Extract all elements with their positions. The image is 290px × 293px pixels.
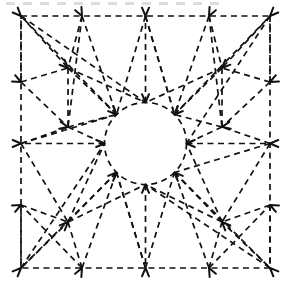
mesh-line bbox=[146, 68, 223, 103]
mesh-line bbox=[68, 144, 105, 223]
vertex-arrowhead bbox=[270, 268, 278, 276]
mesh-line bbox=[187, 144, 223, 223]
mesh-line bbox=[209, 16, 222, 127]
vertex-arrowhead bbox=[12, 205, 21, 212]
mesh-line bbox=[68, 185, 146, 223]
vertex-arrowhead bbox=[142, 268, 149, 276]
mesh-diagram-canvas bbox=[0, 0, 290, 293]
star-edge bbox=[117, 173, 146, 269]
mesh-line bbox=[175, 68, 223, 115]
vertex-arrowhead bbox=[13, 140, 21, 147]
mesh-line bbox=[117, 16, 146, 115]
vertex-arrowhead bbox=[13, 8, 21, 16]
mesh-line bbox=[68, 68, 117, 115]
mesh-line bbox=[82, 16, 117, 115]
mesh-line bbox=[21, 68, 68, 82]
mesh-line bbox=[175, 173, 210, 269]
mesh-line bbox=[21, 82, 68, 127]
mesh-line bbox=[68, 68, 146, 103]
vertex-arrowhead bbox=[75, 7, 82, 16]
star-edge bbox=[187, 16, 271, 144]
vertex-arrowhead bbox=[209, 7, 216, 16]
vertex-arrowhead bbox=[270, 205, 279, 212]
mesh-line bbox=[21, 127, 68, 144]
star-edge bbox=[21, 115, 117, 144]
vertex-arrowhead bbox=[270, 140, 278, 147]
mesh-line bbox=[68, 16, 82, 127]
mesh-line bbox=[68, 16, 82, 68]
mesh-line bbox=[21, 144, 68, 223]
mesh-line bbox=[146, 173, 175, 269]
mesh-line bbox=[68, 222, 82, 268]
mesh-line bbox=[175, 16, 210, 115]
vertex-arrowhead bbox=[270, 75, 279, 82]
mesh-line bbox=[222, 68, 270, 82]
star-outline-group bbox=[21, 16, 270, 268]
vertex-arrowhead bbox=[75, 268, 82, 277]
vertex-arrowhead bbox=[142, 8, 149, 16]
figure-root: Triangulated mesh with eight-pointed sta… bbox=[0, 0, 290, 293]
mesh-line bbox=[222, 82, 270, 127]
mesh-line bbox=[146, 185, 223, 223]
vertex-arrowhead bbox=[222, 122, 231, 129]
vertex-arrowhead bbox=[59, 122, 68, 129]
mesh-line bbox=[209, 16, 222, 68]
star-edge bbox=[21, 16, 146, 103]
mesh-line bbox=[209, 222, 222, 268]
mesh-line bbox=[82, 173, 117, 269]
star-edge bbox=[146, 185, 271, 269]
vertex-arrowhead bbox=[13, 268, 21, 276]
vertex-arrowhead bbox=[12, 75, 21, 82]
star-edge bbox=[175, 144, 271, 173]
mesh-line bbox=[222, 127, 270, 144]
vertex-arrowhead bbox=[270, 8, 278, 16]
vertex-arrowhead bbox=[209, 268, 216, 277]
